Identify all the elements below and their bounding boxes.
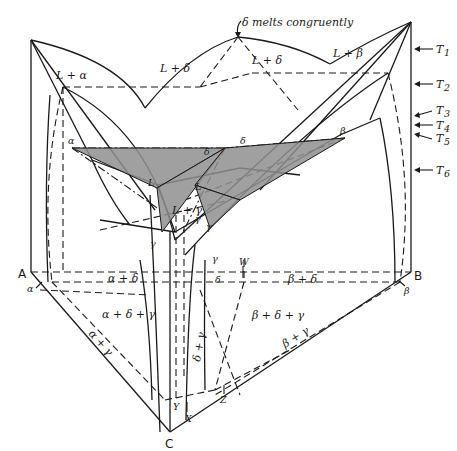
base-point-w: W [239, 256, 250, 267]
temperature-markers: T 1 T 2 T 3 T 4 T 5 T 6 [414, 43, 450, 179]
temp-marker-t1: T 1 [414, 43, 450, 58]
label-l-delta-left: L + δ [159, 62, 191, 75]
point-delta-left: δ [204, 146, 210, 157]
base-point-delta: δ [215, 274, 221, 285]
component-c: C [165, 437, 173, 451]
point-l-right: L [194, 181, 201, 192]
ternary-phase-diagram: L + α L + δ L + δ L + β L + γ δ melts co… [0, 0, 457, 451]
svg-text:3: 3 [444, 108, 450, 119]
label-alpha-delta: α + δ [108, 272, 139, 285]
label-alpha-gamma: α + γ [86, 327, 116, 358]
base-point-labels: α β γ δ W Y X Z [27, 253, 410, 424]
svg-text:5: 5 [444, 136, 450, 147]
congruent-melting-annotation: δ melts congruently [235, 16, 354, 38]
label-alpha-delta-gamma: α + δ + γ [102, 308, 155, 321]
component-labels: A B C [18, 267, 422, 451]
point-l-left: L [147, 177, 154, 188]
svg-text:6: 6 [444, 168, 450, 179]
temp-marker-t3: T 3 [414, 104, 450, 119]
point-gamma-mid: γ [206, 221, 212, 232]
temp-marker-t2: T 2 [414, 78, 450, 93]
base-point-alpha: α [27, 283, 34, 294]
base-point-beta: β [403, 285, 410, 296]
base-point-gamma-top: γ [212, 253, 218, 264]
right-tie-triangle [195, 138, 345, 200]
base-point-x: X [184, 413, 193, 424]
point-alpha: α [68, 135, 75, 146]
point-delta-right: δ [240, 135, 246, 146]
prism-frame [31, 22, 411, 432]
dashed-internals [40, 73, 405, 400]
svg-text:1: 1 [444, 47, 450, 58]
label-delta-gamma: δ + γ [190, 331, 208, 363]
label-l-alpha: L + α [55, 69, 88, 82]
point-beta: β [339, 125, 346, 136]
temp-marker-t5: T 5 [414, 132, 450, 147]
component-a: A [18, 267, 27, 281]
temp-marker-t6: T 6 [414, 164, 450, 179]
svg-text:4: 4 [443, 123, 450, 134]
surface-lines [31, 22, 411, 432]
base-point-z: Z [219, 394, 227, 405]
component-b: B [414, 269, 422, 283]
label-beta-delta: β + δ [287, 273, 318, 286]
point-gamma-left: γ [150, 238, 156, 249]
point-gamma-upper: γ [195, 213, 201, 224]
base-region-labels: α + δ β + δ α + δ + γ β + δ + γ α + γ β … [86, 272, 318, 363]
label-beta-delta-gamma: β + δ + γ [251, 309, 304, 322]
svg-text:2: 2 [443, 82, 450, 93]
base-point-y: Y [173, 401, 181, 412]
label-beta-gamma: β + γ [279, 324, 312, 351]
label-l-beta: L + β [332, 47, 363, 60]
temp-marker-t4: T 4 [414, 119, 450, 134]
annotation-text: δ melts congruently [242, 16, 354, 29]
label-l-delta-right: L + δ [251, 54, 283, 67]
